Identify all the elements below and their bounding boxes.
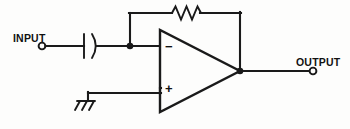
output-label: OUTPUT xyxy=(296,56,341,68)
inverting-input-sign: − xyxy=(165,39,173,54)
ground-hatch-1 xyxy=(75,101,80,110)
schematic-canvas: − + INPUT OUTPUT xyxy=(0,0,350,129)
feedback-resistor-zigzag xyxy=(172,7,201,20)
input-label: INPUT xyxy=(13,32,46,44)
ground-hatch-3 xyxy=(89,101,94,110)
ground-hatch-2 xyxy=(82,101,87,110)
circuit-schematic: − + INPUT OUTPUT xyxy=(0,0,350,129)
output-terminal-ring[interactable] xyxy=(310,68,317,75)
noninverting-input-sign: + xyxy=(165,81,173,96)
